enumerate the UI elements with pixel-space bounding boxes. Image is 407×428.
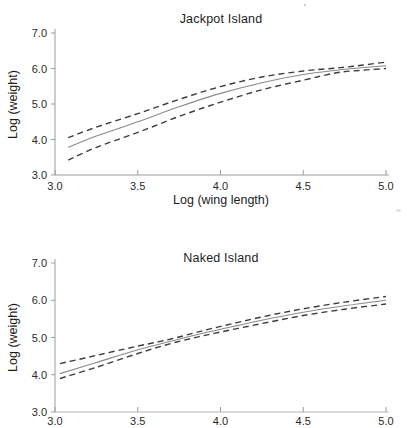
- y-tick-label: 4.0: [32, 134, 47, 146]
- x-tick-label: 3.0: [47, 180, 62, 192]
- y-tick-label: 3.0: [32, 406, 47, 418]
- chart-naked-island: Naked Island Log (weight) 3.04.05.06.07.…: [0, 214, 407, 428]
- series-regression-fit: [68, 66, 386, 148]
- x-tick-label: 3.0: [47, 415, 62, 427]
- y-tick-label: 7.0: [32, 257, 47, 269]
- y-tick-label: 4.0: [32, 369, 47, 381]
- x-tick-label: 5.0: [378, 180, 393, 192]
- chart-canvas: 3.04.05.06.07.03.03.54.04.55.0: [0, 0, 407, 214]
- y-tick-label: 5.0: [32, 332, 47, 344]
- series-lower-confidence-band: [68, 69, 386, 161]
- scan-speck: [304, 4, 306, 6]
- x-tick-label: 3.5: [130, 180, 145, 192]
- series-lower-confidence-band: [60, 304, 386, 379]
- scan-speck: [396, 209, 401, 212]
- x-tick-label: 4.5: [296, 415, 311, 427]
- x-tick-label: 4.0: [213, 180, 228, 192]
- y-tick-label: 7.0: [32, 27, 47, 39]
- y-tick-label: 3.0: [32, 169, 47, 181]
- x-tick-label: 5.0: [378, 415, 393, 427]
- x-tick-label: 4.0: [213, 415, 228, 427]
- chart-canvas: 3.04.05.06.07.03.03.54.04.55.0: [0, 214, 407, 428]
- y-tick-label: 6.0: [32, 63, 47, 75]
- x-tick-label: 3.5: [130, 415, 145, 427]
- y-tick-label: 6.0: [32, 294, 47, 306]
- chart-jackpot-island: Jackpot Island Log (weight) Log (wing le…: [0, 0, 407, 214]
- y-tick-label: 5.0: [32, 98, 47, 110]
- x-tick-label: 4.5: [296, 180, 311, 192]
- series-upper-confidence-band: [68, 62, 386, 138]
